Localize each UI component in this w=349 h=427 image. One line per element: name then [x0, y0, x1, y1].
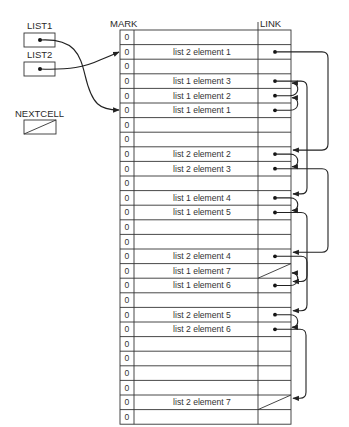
- cell-value: list 2 element 2: [173, 149, 231, 159]
- list1-label: LIST1: [27, 20, 52, 31]
- mark-bit: 0: [125, 120, 130, 130]
- mark-bit: 0: [125, 149, 130, 159]
- cell-value: list 2 element 1: [173, 47, 231, 57]
- mark-bit: 0: [125, 266, 130, 276]
- nextcell-pointer: NEXTCELL: [15, 108, 64, 134]
- mark-bit: 0: [125, 91, 130, 101]
- memory-table: 00list 2 element 100list 1 element 30lis…: [120, 22, 291, 424]
- link-arrow: [275, 52, 328, 150]
- link-arrows: [273, 50, 328, 398]
- cell-value: list 2 element 6: [173, 324, 231, 334]
- link-arrow: [275, 198, 298, 211]
- mark-bit: 0: [125, 339, 130, 349]
- cell-value: list 2 element 4: [173, 251, 231, 261]
- cell-value: list 1 element 7: [173, 266, 231, 276]
- mark-bit: 0: [125, 76, 130, 86]
- mark-bit: 0: [125, 251, 130, 261]
- link-arrow: [275, 329, 306, 398]
- mark-bit: 0: [125, 207, 130, 217]
- cell-value: list 1 element 2: [173, 91, 231, 101]
- mark-bit: 0: [125, 193, 130, 203]
- linked-list-memory-diagram: LIST1 LIST2 NEXTCELL MARK LINK 00list 2 …: [0, 0, 349, 427]
- cell-value: list 2 element 3: [173, 164, 231, 174]
- mark-bit: 0: [125, 47, 130, 57]
- list1-pointer: LIST1: [24, 20, 55, 47]
- nextcell-label: NEXTCELL: [15, 108, 64, 119]
- list2-pointer: LIST2: [24, 49, 55, 76]
- mark-bit: 0: [125, 178, 130, 188]
- nil-slash-icon: [258, 264, 291, 279]
- mark-bit: 0: [125, 105, 130, 115]
- mark-bit: 0: [125, 134, 130, 144]
- mark-bit: 0: [125, 295, 130, 305]
- mark-bit: 0: [125, 61, 130, 71]
- mark-bit: 0: [125, 383, 130, 393]
- nil-slash-icon: [24, 120, 56, 134]
- mark-bit: 0: [125, 280, 130, 290]
- mark-bit: 0: [125, 222, 130, 232]
- mark-bit: 0: [125, 164, 130, 174]
- cell-value: list 2 element 5: [173, 310, 231, 320]
- mark-bit: 0: [125, 32, 130, 42]
- link-arrow: [275, 154, 298, 167]
- cell-value: list 1 element 4: [173, 193, 231, 203]
- mark-bit: 0: [125, 324, 130, 334]
- list2-label: LIST2: [27, 49, 52, 60]
- cell-value: list 2 element 7: [173, 397, 231, 407]
- cell-value: list 1 element 5: [173, 207, 231, 217]
- mark-bit: 0: [125, 237, 130, 247]
- link-arrow: [275, 273, 298, 286]
- link-arrow: [275, 315, 298, 328]
- mark-bit: 0: [125, 412, 130, 422]
- link-arrow: [275, 98, 298, 111]
- nil-slash-icon: [258, 395, 291, 410]
- mark-bit: 0: [125, 310, 130, 320]
- link-arrow: [275, 83, 298, 96]
- cell-value: list 1 element 6: [173, 280, 231, 290]
- mark-bit: 0: [125, 368, 130, 378]
- cell-value: list 1 element 1: [173, 105, 231, 115]
- link-arrow: [275, 169, 328, 253]
- mark-bit: 0: [125, 397, 130, 407]
- link-header: LINK: [260, 18, 282, 29]
- cell-value: list 1 element 3: [173, 76, 231, 86]
- mark-header: MARK: [110, 18, 138, 29]
- mark-bit: 0: [125, 353, 130, 363]
